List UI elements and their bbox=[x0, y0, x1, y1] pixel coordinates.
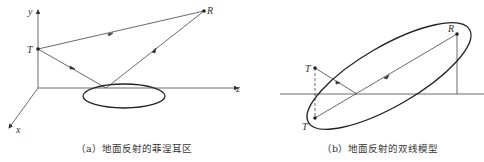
z-axis-label: z bbox=[235, 83, 240, 94]
panel-a-fresnel-zone bbox=[9, 9, 238, 128]
arrow-incident bbox=[336, 81, 340, 84]
x-axis bbox=[9, 88, 38, 128]
arrow-reflected bbox=[152, 48, 156, 53]
x-axis-label: x bbox=[15, 124, 21, 135]
receiver-label: R bbox=[206, 5, 213, 16]
caption-a: （a）地面反射的菲涅耳区 bbox=[76, 141, 192, 155]
arrow-incident bbox=[70, 66, 75, 69]
transmitter-label: T bbox=[27, 44, 34, 55]
direct-path bbox=[38, 11, 204, 49]
figure: y z x T R T T' R （a）地面反射的菲涅耳区 （b）地面反射的双线… bbox=[0, 0, 484, 162]
diagram-canvas: y z x T R T T' R bbox=[0, 0, 484, 162]
arrow-direct bbox=[108, 33, 113, 36]
transmitter-point bbox=[313, 66, 317, 70]
receiver-label: R bbox=[447, 23, 454, 34]
caption-b: （b）地面反射的双线模型 bbox=[322, 141, 438, 155]
image-transmitter-point bbox=[313, 116, 317, 120]
image-transmitter-label: T' bbox=[302, 121, 311, 132]
y-axis-label: y bbox=[27, 6, 33, 17]
transmitter-label: T bbox=[305, 63, 312, 74]
transmitter-point bbox=[36, 47, 40, 51]
receiver-point bbox=[455, 32, 459, 36]
receiver-point bbox=[202, 9, 206, 13]
